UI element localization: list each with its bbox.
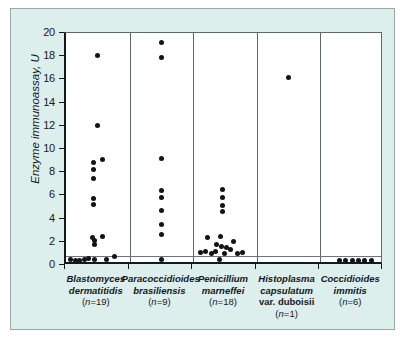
- x-tick-mark: [318, 264, 319, 269]
- y-tick-label: 4: [49, 212, 55, 224]
- figure-panel: Enzyme immunoassay, U 02468101214161820 …: [10, 8, 395, 330]
- x-axis-label-count: (n=1): [249, 308, 325, 320]
- y-tick-mark: [59, 171, 64, 172]
- data-point: [91, 167, 96, 172]
- data-point: [159, 40, 164, 45]
- data-point: [356, 258, 361, 263]
- y-tick-label: 18: [43, 49, 55, 61]
- panel-divider: [320, 33, 321, 262]
- data-point: [217, 257, 222, 262]
- data-point: [91, 160, 96, 165]
- data-point: [104, 257, 109, 262]
- data-point: [220, 209, 225, 214]
- y-tick-mark: [59, 125, 64, 126]
- data-point: [369, 258, 374, 263]
- data-point: [220, 195, 225, 200]
- data-point: [95, 123, 100, 128]
- y-tick-mark: [59, 78, 64, 79]
- panel-divider: [257, 33, 258, 262]
- y-tick-label: 12: [43, 119, 55, 131]
- data-point: [198, 250, 203, 255]
- y-tick-label: 6: [49, 188, 55, 200]
- data-point: [91, 196, 96, 201]
- x-axis-label-line: immitis: [312, 285, 388, 297]
- plot-area: [64, 32, 382, 264]
- y-tick-mark: [59, 55, 64, 56]
- y-tick-label: 10: [43, 142, 55, 154]
- data-point: [218, 234, 223, 239]
- data-point: [203, 249, 208, 254]
- x-tick-mark: [191, 264, 192, 269]
- data-point: [222, 251, 227, 256]
- data-point: [350, 258, 355, 263]
- x-axis-label-5: Coccidioidesimmitis(n=6): [312, 273, 388, 308]
- data-point: [159, 257, 164, 262]
- x-tick-mark: [64, 264, 65, 269]
- y-tick-mark: [59, 194, 64, 195]
- x-axis-tick-labels: Blastomycesdermatitidis(n=19)Paracoccidi…: [64, 273, 382, 329]
- data-point: [159, 208, 164, 213]
- y-tick-label: 8: [49, 165, 55, 177]
- x-tick-mark: [381, 264, 382, 269]
- y-axis-tick-labels: 02468101214161820: [25, 32, 55, 264]
- data-point: [231, 239, 236, 244]
- data-point: [86, 256, 91, 261]
- data-point: [362, 258, 367, 263]
- data-point: [337, 258, 342, 263]
- y-tick-label: 0: [49, 258, 55, 270]
- x-axis-ticks: [64, 264, 382, 270]
- data-point: [286, 75, 291, 80]
- x-axis-label-count: (n=6): [312, 296, 388, 308]
- data-point: [205, 235, 210, 240]
- data-point: [240, 250, 245, 255]
- data-point: [92, 257, 97, 262]
- y-tick-mark: [59, 264, 64, 265]
- x-tick-mark: [128, 264, 129, 269]
- data-point: [159, 55, 164, 60]
- data-point: [91, 202, 96, 207]
- data-point: [92, 242, 97, 247]
- data-point: [159, 232, 164, 237]
- data-point: [159, 195, 164, 200]
- data-point: [228, 247, 233, 252]
- y-tick-mark: [59, 148, 64, 149]
- data-point: [91, 176, 96, 181]
- y-tick-mark: [59, 102, 64, 103]
- panel-divider: [130, 33, 131, 262]
- y-tick-mark: [59, 241, 64, 242]
- y-tick-mark: [59, 218, 64, 219]
- y-tick-label: 20: [43, 26, 55, 38]
- data-point: [159, 222, 164, 227]
- y-tick-label: 2: [49, 235, 55, 247]
- panel-divider: [193, 33, 194, 262]
- y-tick-label: 16: [43, 72, 55, 84]
- data-point: [100, 234, 105, 239]
- data-point: [220, 203, 225, 208]
- y-tick-mark: [59, 32, 64, 33]
- data-point: [159, 156, 164, 161]
- data-point: [220, 187, 225, 192]
- data-point: [343, 258, 348, 263]
- data-point: [95, 53, 100, 58]
- data-point: [112, 254, 117, 259]
- data-point: [159, 188, 164, 193]
- data-point: [100, 157, 105, 162]
- x-axis-label-line: Coccidioides: [312, 273, 388, 285]
- y-tick-label: 14: [43, 96, 55, 108]
- x-tick-mark: [255, 264, 256, 269]
